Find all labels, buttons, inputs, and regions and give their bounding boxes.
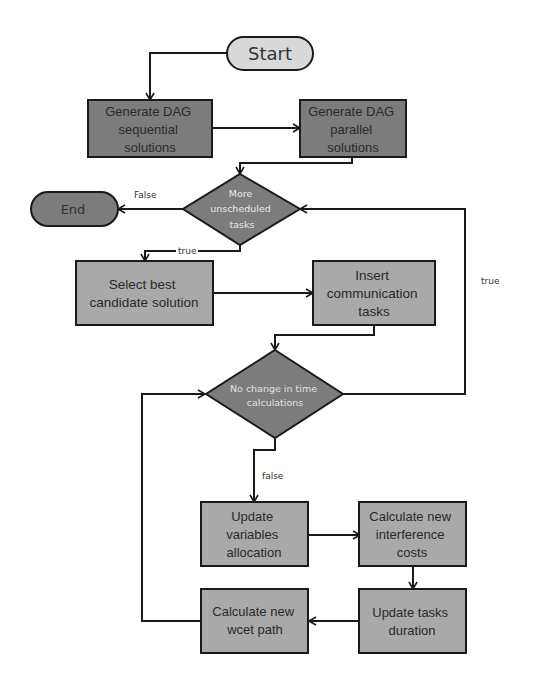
update-dur-line2: duration: [389, 623, 436, 638]
svg-text:Update variables a: Update variables allocation: [226, 509, 282, 560]
update-vars-line1: Update: [231, 509, 273, 524]
insert-comm-line2: communication: [327, 286, 418, 301]
gen-par-line2: parallel: [330, 122, 372, 137]
start-label: Start: [248, 43, 292, 64]
label-false-to-update: false: [262, 471, 284, 481]
edge-diamond2-to-update-vars: [254, 438, 275, 502]
label-true-to-select: true: [178, 246, 197, 256]
gen-seq-line3: solutions: [124, 140, 176, 155]
more-tasks-line2: unscheduled: [210, 203, 271, 214]
more-tasks-line3: tasks: [230, 219, 255, 230]
more-tasks-decision: More unscheduled tasks: [183, 174, 300, 245]
update-vars-line3: allocation: [227, 545, 282, 560]
edge-gen-par-to-diamond1: [240, 157, 352, 174]
insert-comm-line1: Insert: [355, 268, 389, 283]
flowchart: Start Generate DAG sequential solutions …: [0, 0, 540, 686]
select-best-line2: candidate solution: [90, 295, 199, 310]
edge-start-to-gen-seq: [150, 53, 227, 100]
gen-par-line1: Generate DAG: [308, 104, 394, 119]
label-true-loop-back: true: [481, 276, 500, 286]
gen-par-line3: solutions: [327, 140, 379, 155]
gen-seq-line1: Generate DAG: [105, 104, 191, 119]
update-dur-line1: Update tasks: [372, 605, 448, 620]
gen-seq-line2: sequential: [119, 122, 178, 137]
update-vars-line2: variables: [226, 527, 279, 542]
calc-wcet-line2: wcet path: [226, 622, 283, 637]
insert-comm-node: Insert communication tasks: [313, 261, 435, 325]
gen-seq-node: Generate DAG sequential solutions: [88, 100, 212, 157]
calc-interf-line1: Calculate new: [369, 509, 451, 524]
no-change-decision: No change in time calculations: [206, 350, 343, 438]
calc-interf-line3: costs: [397, 545, 428, 560]
no-change-line2: calculations: [247, 397, 304, 408]
start-node: Start: [227, 37, 313, 70]
select-best-line1: Select best: [109, 277, 176, 292]
update-dur-node: Update tasks duration: [359, 589, 466, 653]
calc-interf-line2: interference: [376, 527, 445, 542]
calc-interf-node: Calculate new interference costs: [359, 502, 466, 566]
edge-calc-wcet-loop-back: [142, 394, 205, 621]
calc-wcet-line1: Calculate new: [212, 604, 294, 619]
end-node: End: [31, 192, 118, 226]
gen-par-node: Generate DAG parallel solutions: [300, 100, 406, 157]
label-false-to-end: False: [134, 190, 157, 200]
update-vars-node: Update variables allocation: [201, 502, 308, 566]
calc-wcet-node: Calculate new wcet path: [201, 589, 308, 653]
more-tasks-line1: More: [229, 188, 253, 199]
edge-insert-to-diamond2: [275, 325, 374, 350]
end-label: End: [61, 202, 86, 217]
select-best-node: Select best candidate solution: [76, 261, 213, 325]
insert-comm-line3: tasks: [358, 304, 390, 319]
no-change-line1: No change in time: [230, 383, 317, 394]
